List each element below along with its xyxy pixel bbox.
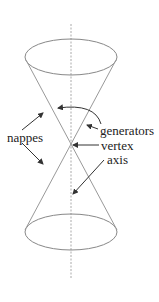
nappes-label: nappes bbox=[7, 131, 43, 144]
double-cone-diagram: nappes generators vertex axis bbox=[0, 0, 159, 302]
vertex-label: vertex bbox=[101, 139, 133, 152]
generators-arc-arrow bbox=[58, 107, 101, 124]
axis-label: axis bbox=[107, 153, 128, 166]
generators-label: generators bbox=[100, 124, 154, 137]
generators-pointer-arrow bbox=[87, 125, 98, 129]
cone-drawing bbox=[0, 0, 159, 302]
axis-arrow bbox=[73, 160, 104, 194]
nappes-arrow-lower bbox=[22, 143, 43, 164]
nappes-arrow-upper bbox=[22, 113, 43, 130]
